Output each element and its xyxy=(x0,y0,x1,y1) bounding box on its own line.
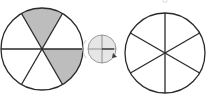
left-fraction-circle xyxy=(1,8,83,90)
shaded-sector-lower-right xyxy=(42,49,83,85)
fraction-diagram xyxy=(0,0,206,98)
right-fraction-circle xyxy=(125,0,205,93)
shaded-sector-top xyxy=(22,8,63,49)
spinner-icon xyxy=(83,35,117,63)
